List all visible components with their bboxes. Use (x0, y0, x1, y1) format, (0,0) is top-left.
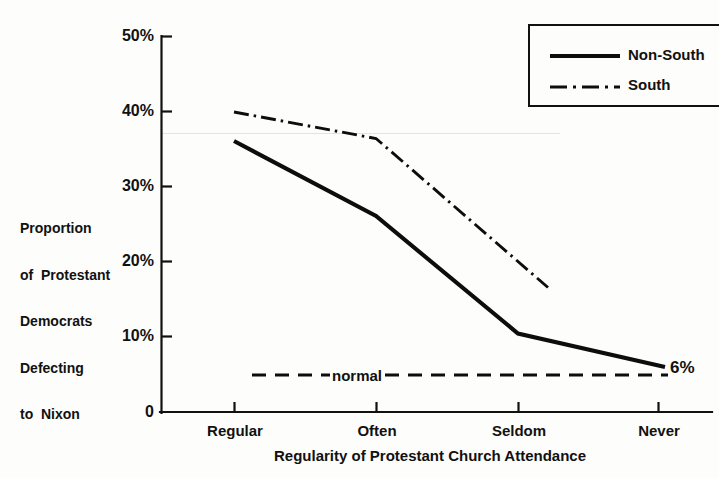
y-axis-title-line-5: to Nixon (20, 407, 170, 423)
x-tick-label-never: Never (604, 423, 714, 438)
chart-legend: Non-South South (528, 24, 719, 107)
legend-swatch-dashdot-icon (550, 84, 620, 89)
chart-figure: 50% 40% 30% 20% 10% 0 Proportion of Prot… (0, 0, 719, 478)
y-axis-title-line-1: Proportion (20, 221, 170, 237)
normal-line-label: normal (332, 368, 382, 383)
x-axis-title: Regularity of Protestant Church Attendan… (150, 448, 710, 463)
series-line-non-south (234, 141, 665, 367)
y-axis-title-line-3: Democrats (20, 314, 170, 330)
legend-label-non-south: Non-South (628, 46, 705, 63)
series-line-south (234, 112, 548, 288)
y-axis-title-line-4: Defecting (20, 361, 170, 377)
y-axis-title-line-2: of Protestant (20, 268, 170, 284)
legend-item-non-south: Non-South (528, 46, 719, 68)
y-tick-label-40: 40% (100, 103, 154, 119)
x-tick-label-seldom: Seldom (464, 423, 574, 438)
y-axis-title: Proportion of Protestant Democrats Defec… (20, 190, 170, 454)
non-south-endpoint-value: 6% (670, 359, 695, 376)
legend-item-south: South (528, 76, 719, 98)
x-tick-label-regular: Regular (180, 423, 290, 438)
y-tick-label-50: 50% (100, 28, 154, 44)
x-tick-label-often: Often (322, 423, 432, 438)
legend-label-south: South (628, 76, 671, 93)
legend-swatch-solid-icon (550, 54, 620, 58)
